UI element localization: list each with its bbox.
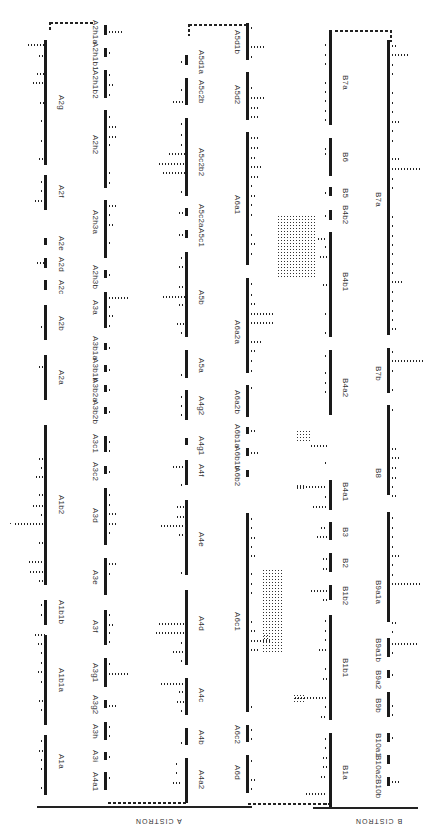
mutation-marker	[108, 144, 112, 146]
mutation-marker	[108, 182, 112, 184]
mutation-marker	[250, 555, 256, 557]
mutation-marker	[38, 750, 44, 752]
segment-label: B10a2	[374, 755, 383, 779]
segment-label: A3b1a	[91, 336, 100, 360]
mutation-marker	[391, 467, 397, 469]
mutation-marker	[250, 360, 253, 362]
dashed-connector	[390, 30, 392, 42]
mutation-marker	[108, 563, 116, 565]
segment-label: A4e	[197, 532, 206, 547]
mutation-marker	[40, 681, 44, 683]
mutation-marker	[108, 297, 130, 299]
segment-label: A5d1a	[197, 50, 206, 74]
mutation-marker	[324, 215, 327, 217]
mutation-marker	[108, 306, 111, 308]
segment-label: A6a2b	[233, 390, 242, 414]
mutation-marker	[305, 793, 327, 795]
mutation-marker	[391, 536, 394, 538]
segment-label: A1b2	[57, 495, 66, 514]
mutation-marker	[391, 389, 395, 391]
segment-label: A1a	[57, 754, 66, 769]
segment-bar	[104, 48, 107, 57]
mutation-marker	[180, 414, 184, 416]
mutation-marker	[391, 54, 409, 56]
mutation-marker	[108, 116, 112, 118]
mutation-marker	[250, 452, 260, 454]
mutation-marker	[28, 561, 45, 563]
mutation-marker	[250, 649, 260, 651]
mutation-marker	[180, 660, 184, 662]
mutation-marker	[180, 61, 183, 63]
mutation-marker	[391, 527, 395, 529]
mutation-marker	[36, 73, 44, 75]
mutation-marker	[108, 532, 111, 534]
mutation-marker	[108, 450, 111, 452]
segment-bar	[44, 600, 47, 625]
cistron-brace	[313, 807, 418, 809]
segment-bar	[387, 348, 390, 393]
mutation-marker	[250, 573, 253, 575]
segment-label: A3f	[91, 620, 100, 633]
mutation-marker	[250, 27, 253, 29]
segment-label: B1b1	[341, 658, 350, 677]
mutation-marker	[391, 216, 394, 218]
segment-bar	[44, 635, 47, 725]
segment-label: A5d2	[233, 85, 242, 104]
segment-label: A6b1a	[233, 424, 242, 448]
segment-bar	[329, 210, 332, 220]
segment-bar	[246, 72, 249, 120]
mutation-marker	[108, 523, 118, 525]
mutation-marker	[310, 445, 327, 447]
segment-bar	[104, 407, 107, 414]
segment-bar	[246, 385, 249, 417]
mutation-marker	[250, 640, 270, 642]
mutation-marker	[180, 742, 184, 744]
mutation-marker	[322, 558, 327, 560]
segment-label: B9a1b	[374, 638, 383, 662]
mutation-marker	[40, 467, 44, 469]
segment-bar	[387, 755, 390, 764]
segment-label: A3b2a	[91, 378, 100, 402]
mutation-marker	[322, 568, 327, 570]
mutation-marker	[39, 102, 45, 104]
mutation-marker	[319, 803, 327, 805]
mutation-marker	[250, 729, 253, 731]
mutation-marker	[391, 564, 394, 566]
mutation-marker	[250, 166, 262, 168]
segment-label: A3c1	[91, 434, 100, 453]
mutation-marker	[250, 583, 254, 585]
segment-bar	[185, 118, 188, 196]
segment-label: A2a	[57, 370, 66, 385]
segment-bar	[44, 238, 47, 245]
mutation-marker	[250, 214, 254, 216]
mutation-marker	[32, 505, 45, 507]
mutation-marker	[32, 82, 45, 84]
mutation-marker	[250, 294, 253, 296]
mutation-marker	[108, 74, 112, 76]
segment-bar	[104, 343, 107, 350]
segment-label: B2	[341, 558, 350, 568]
mutation-marker	[324, 54, 327, 56]
segment-bar	[387, 512, 390, 622]
segment-label: A2g	[57, 95, 66, 110]
mutation-marker	[322, 766, 327, 768]
segment-label: A5c2b2	[197, 148, 206, 176]
mutation-marker	[250, 176, 258, 178]
mutation-marker	[27, 44, 45, 46]
segment-label: A4d	[197, 616, 206, 631]
segment-label: A4f	[197, 464, 206, 477]
mutation-marker	[250, 195, 256, 197]
mutation-marker	[324, 462, 327, 464]
mutation-marker	[40, 120, 44, 122]
mutation-marker	[40, 652, 44, 654]
segment-label: B9a1a	[374, 580, 383, 604]
segment-label: A4c	[197, 688, 206, 702]
segment-label: A2h1b2	[91, 70, 100, 99]
dashed-connector	[50, 22, 95, 24]
mutation-marker	[318, 649, 327, 651]
mutation-marker	[180, 405, 184, 407]
mutation-marker	[108, 126, 118, 128]
mutation-marker	[391, 674, 394, 676]
mutation-marker	[176, 506, 186, 508]
segment-label: A2f	[57, 185, 66, 198]
